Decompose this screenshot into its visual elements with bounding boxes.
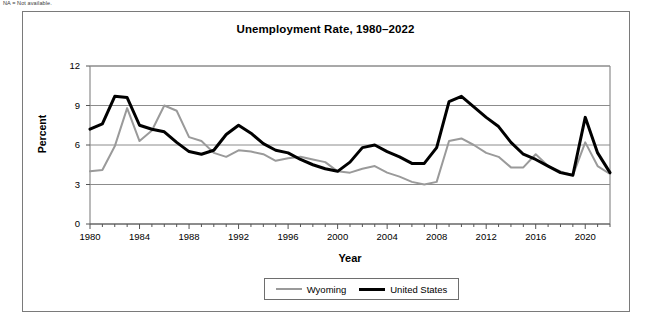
x-tick-label: 1996	[268, 231, 308, 242]
legend-label-wyoming: Wyoming	[307, 284, 347, 295]
y-tick-label: 9	[54, 100, 80, 111]
chart-page: NA = Not available. Unemployment Rate, 1…	[0, 0, 651, 331]
x-tick-label: 1980	[70, 231, 110, 242]
x-tick-label: 1984	[120, 231, 160, 242]
y-tick-label: 0	[54, 218, 80, 229]
legend-label-united-states: United States	[390, 284, 447, 295]
y-tick-label: 3	[54, 179, 80, 190]
x-tick-label: 2020	[565, 231, 605, 242]
y-tick-label: 12	[54, 60, 80, 71]
y-tick-label: 6	[54, 139, 80, 150]
x-tick-label: 2000	[318, 231, 358, 242]
x-tick-label: 2012	[466, 231, 506, 242]
legend-entry-wyoming: Wyoming	[276, 284, 347, 295]
legend-swatch-united-states-icon	[359, 288, 385, 291]
x-tick-label: 2008	[417, 231, 457, 242]
x-tick-label: 1988	[169, 231, 209, 242]
x-tick-label: 2004	[367, 231, 407, 242]
x-tick-label: 2016	[516, 231, 556, 242]
x-tick-label: 1992	[219, 231, 259, 242]
legend-swatch-wyoming-icon	[276, 288, 302, 290]
chart-legend: Wyoming United States	[264, 278, 459, 300]
legend-entry-united-states: United States	[359, 284, 447, 295]
